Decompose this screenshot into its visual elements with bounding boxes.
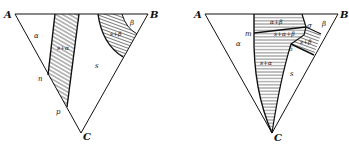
right-point-delta: δ (289, 45, 293, 52)
right-ternary-diagram: A B C m σ δ α α+β s+α+β s+α s s+β β (193, 9, 348, 143)
right-label-alpha: α (236, 40, 241, 48)
left-region-s-alpha (48, 14, 79, 107)
right-point-sigma: σ (307, 22, 312, 30)
right-vertex-c: C (274, 132, 282, 143)
right-region-s-alpha (255, 38, 291, 133)
left-label-s-alpha: s+α (57, 44, 69, 51)
left-point-n: n (38, 75, 43, 83)
right-label-s-beta: s+β (300, 38, 312, 46)
right-label-beta: β (321, 20, 326, 28)
right-label-s-alpha: s+α (260, 59, 272, 66)
left-point-p: p (56, 108, 61, 116)
left-label-beta: β (129, 19, 134, 27)
right-vertex-b: B (339, 9, 348, 20)
left-label-s-beta: s+β (110, 30, 122, 38)
right-point-m: m (245, 30, 252, 38)
left-vertex-c: C (83, 131, 91, 142)
right-label-s: s (290, 70, 294, 78)
phase-diagrams: A B C n p α s+α s s+β β A B C m σ (0, 0, 349, 144)
right-label-s-alpha-beta: s+α+β (274, 30, 295, 38)
left-vertex-a: A (3, 9, 12, 20)
right-label-alpha-beta: α+β (270, 18, 283, 26)
left-label-s: s (95, 62, 99, 70)
left-label-alpha: α (34, 32, 39, 40)
right-vertex-a: A (193, 9, 202, 20)
left-ternary-diagram: A B C n p α s+α s s+β β (3, 9, 158, 142)
left-vertex-b: B (149, 9, 158, 20)
